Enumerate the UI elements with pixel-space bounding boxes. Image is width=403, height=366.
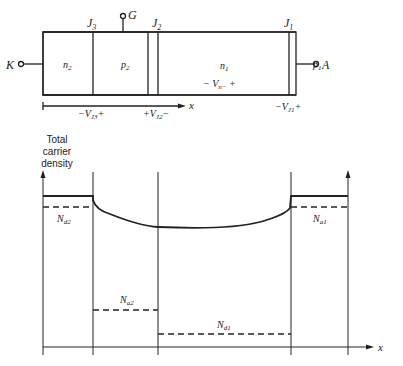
vj1-label: −VJ1+: [275, 101, 301, 114]
carrier-density-plot: [43, 172, 368, 355]
region-p2-label: p2: [120, 59, 130, 72]
junction-j1-label: J1: [284, 16, 293, 32]
device-x-axis-label: x: [188, 99, 194, 111]
region-n1-label: n1: [220, 60, 229, 73]
plot-xlabel: x: [377, 341, 383, 353]
nd2-label: Nd2: [56, 213, 71, 226]
vj2-label: +VJ2−: [143, 108, 169, 121]
na1-label: Na1: [312, 213, 327, 226]
plot-ylabel-line1: Total: [46, 134, 67, 145]
thyristor-diagram: K G A J3 J2 J1 n2 p2 n1 p1 − Vn− + x −VJ…: [0, 0, 403, 366]
region-p1-label: p1: [312, 59, 322, 72]
plot-ylabel-line3: density: [41, 158, 73, 169]
vj3-label: −VJ3+: [78, 108, 104, 121]
anode-label: A: [321, 58, 330, 72]
plot-ylabel-line2: carrier: [43, 146, 72, 157]
cathode-label: K: [5, 58, 15, 72]
na2-label: Na2: [119, 294, 134, 307]
gate-label: G: [128, 8, 137, 22]
junction-j2-label: J2: [152, 16, 161, 32]
nd1-label: Nd1: [216, 319, 231, 332]
region-n2-label: n2: [63, 59, 72, 72]
junction-j3-label: J3: [87, 16, 96, 32]
vn-drop-label: − Vn− +: [203, 78, 236, 91]
